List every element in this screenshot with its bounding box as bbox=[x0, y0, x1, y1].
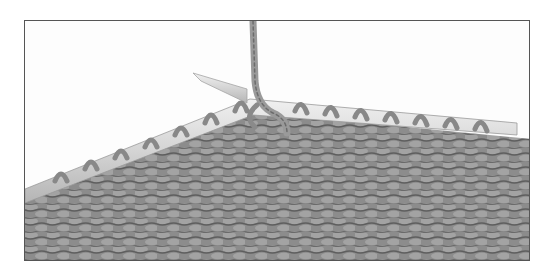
knitted-fabric bbox=[25, 111, 530, 261]
photo-frame: Knitting stitches on needle with working… bbox=[24, 20, 530, 261]
knitting-photo bbox=[25, 21, 530, 261]
